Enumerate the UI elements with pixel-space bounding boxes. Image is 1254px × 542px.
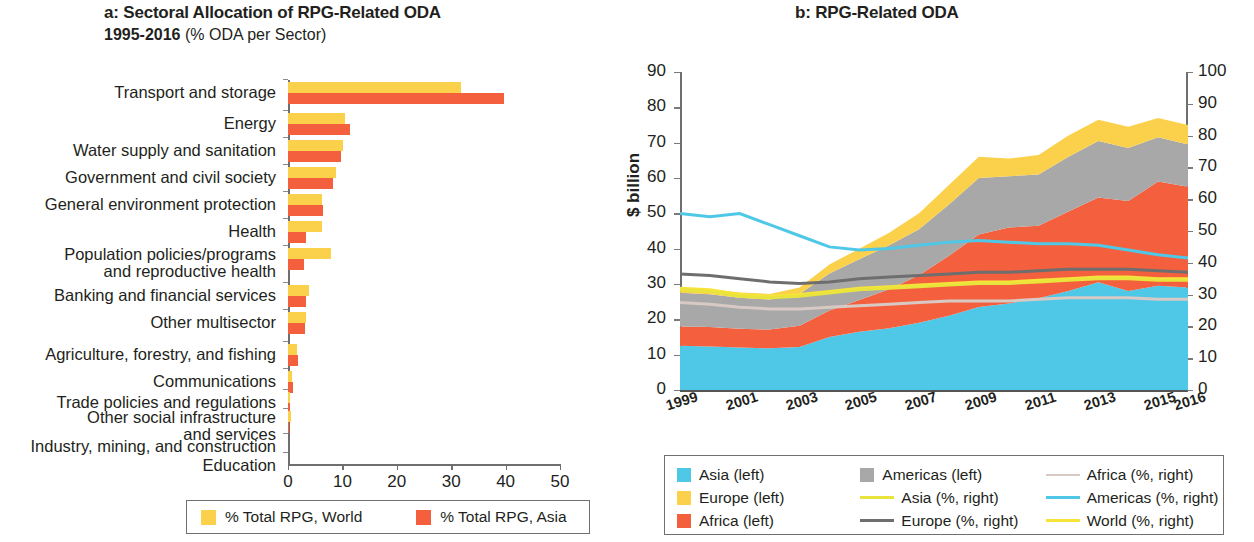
panel-b-left-tick-label: 70 <box>626 132 666 152</box>
legend-swatch-asia-icon <box>677 468 691 482</box>
panel-a-x-tick-label: 30 <box>429 472 473 492</box>
panel-a-category-label: General environment protection <box>0 196 282 213</box>
panel-b-x-tick-label: 2005 <box>843 389 879 414</box>
panel-a-y-tick <box>283 433 288 434</box>
panel-a-bar-asia <box>288 355 298 366</box>
panel-a-subtitle: 1995-2016 (% ODA per Sector) <box>104 26 326 44</box>
panel-b-legend-item-europe-left: Europe (left) <box>665 489 860 507</box>
legend-line-asia-pct-icon <box>860 496 894 499</box>
panel-b-legend-label-5: Americas (%, right) <box>1087 489 1219 507</box>
panel-a-bar-world <box>288 285 309 296</box>
panel-a-title: a: Sectoral Allocation of RPG-Related OD… <box>104 3 441 23</box>
panel-b-left-tick <box>674 390 680 391</box>
panel-a-category-label: Energy <box>0 115 282 132</box>
panel-b-legend-label-2: Africa (%, right) <box>1087 466 1194 484</box>
panel-b-left-tick-label: 90 <box>626 61 666 81</box>
panel-a-bar-asia <box>288 205 323 216</box>
panel-a-legend: % Total RPG, World % Total RPG, Asia <box>186 500 590 534</box>
panel-a-category-label: Agriculture, forestry, and fishing <box>0 346 282 363</box>
panel-b-right-tick-label: 80 <box>1198 125 1242 145</box>
legend-line-world-pct-icon <box>1046 519 1080 522</box>
panel-a-category-label: Other multisector <box>0 314 282 331</box>
panel-a-category-label: Industry, mining, and construction <box>0 438 282 455</box>
panel-a-y-tick <box>283 164 288 165</box>
panel-a-bar-asia <box>288 422 289 433</box>
panel-b-legend-item-world-pct: World (%, right) <box>1046 512 1223 530</box>
panel-b-left-tick-label: 50 <box>626 202 666 222</box>
panel-b-left-tick-label: 60 <box>626 167 666 187</box>
panel-a-sectoral-allocation: a: Sectoral Allocation of RPG-Related OD… <box>0 0 620 542</box>
panel-b-legend-item-americas-left: Americas (left) <box>860 466 1045 484</box>
panel-a-bar-asia <box>288 259 304 270</box>
panel-b-x-tick-label: 2016 <box>1172 389 1208 414</box>
panel-b-plot-area <box>680 72 1188 390</box>
legend-line-americas-pct-icon <box>1046 496 1080 499</box>
panel-b-x-tick-label: 2011 <box>1023 389 1058 414</box>
panel-a-bar-world <box>288 140 343 151</box>
panel-a-y-tick <box>283 137 288 138</box>
panel-b-x-tick-label: 2003 <box>784 389 820 414</box>
panel-b-legend-label-3: Europe (left) <box>699 489 784 507</box>
panel-a-bar-world <box>288 371 292 382</box>
legend-swatch-europe-icon <box>677 491 691 505</box>
panel-a-x-tick-label: 0 <box>266 472 310 492</box>
panel-a-x-tick-label: 10 <box>320 472 364 492</box>
panel-b-legend-label-8: World (%, right) <box>1087 512 1194 530</box>
panel-b-legend-label-4: Asia (%, right) <box>901 489 998 507</box>
panel-a-y-tick <box>283 341 288 342</box>
panel-b-legend-item-europe-pct: Europe (%, right) <box>860 512 1045 530</box>
panel-b-x-tick-label: 2001 <box>724 389 760 414</box>
panel-a-bar-asia <box>288 296 306 307</box>
panel-a-y-tick <box>283 218 288 219</box>
legend-swatch-americas-icon <box>860 468 874 482</box>
panel-a-legend-label-world: % Total RPG, World <box>225 508 362 526</box>
panel-a-x-tick-label: 40 <box>484 472 528 492</box>
panel-b-legend-item-africa-left: Africa (left) <box>665 512 860 530</box>
panel-a-bar-world <box>288 194 322 205</box>
panel-b-left-tick-label: 80 <box>626 96 666 116</box>
panel-b-right-tick-label: 40 <box>1198 252 1242 272</box>
panel-a-bar-asia <box>288 323 305 334</box>
panel-a-bar-asia <box>288 124 350 135</box>
panel-a-category-label: Transport and storage <box>0 84 282 101</box>
panel-a-x-tick <box>288 464 289 470</box>
panel-a-bar-world <box>288 344 297 355</box>
panel-b-legend-label-7: Europe (%, right) <box>901 512 1018 530</box>
panel-b-legend-label-0: Asia (left) <box>699 466 764 484</box>
panel-a-y-tick <box>283 309 288 310</box>
panel-b-legend: Asia (left) Americas (left) Africa (%, r… <box>664 455 1224 535</box>
legend-swatch-world-icon <box>201 510 216 525</box>
panel-a-y-tick <box>283 191 288 192</box>
panel-a-category-label: Education <box>0 457 282 474</box>
panel-a-bar-asia <box>288 93 504 104</box>
legend-swatch-africa-icon <box>677 514 691 528</box>
panel-a-subtitle-unit: (% ODA per Sector) <box>181 26 327 43</box>
panel-a-bar-world <box>288 221 322 232</box>
panel-a-bar-world <box>288 113 345 124</box>
panel-b-legend-item-africa-pct: Africa (%, right) <box>1046 466 1223 484</box>
legend-line-europe-pct-icon <box>860 519 894 522</box>
panel-a-x-tick-label: 20 <box>375 472 419 492</box>
panel-b-legend-label-1: Americas (left) <box>882 466 982 484</box>
panel-b-legend-label-6: Africa (left) <box>699 512 774 530</box>
panel-b-right-tick-label: 50 <box>1198 220 1242 240</box>
panel-a-category-label: Government and civil society <box>0 169 282 186</box>
panel-a-bar-world <box>288 392 290 403</box>
panel-b-rpg-related-oda: b: RPG-Related ODA $ billion % of total … <box>620 0 1254 542</box>
panel-b-x-tick-label: 1999 <box>664 389 700 414</box>
panel-a-legend-label-asia: % Total RPG, Asia <box>440 508 566 526</box>
panel-b-right-tick-label: 60 <box>1198 188 1242 208</box>
panel-b-legend-row-2: Europe (left) Asia (%, right) Americas (… <box>665 486 1223 509</box>
panel-a-y-tick <box>283 282 288 283</box>
panel-a-category-label: Banking and financial services <box>0 287 282 304</box>
panel-a-bar-world <box>288 167 336 178</box>
panel-a-legend-item-world: % Total RPG, World <box>201 508 362 526</box>
panel-b-right-tick-label: 10 <box>1198 347 1242 367</box>
panel-a-bar-asia <box>288 178 333 189</box>
panel-a-bar-world <box>288 82 461 93</box>
panel-a-x-tick <box>397 464 398 470</box>
panel-a-bar-world <box>288 411 291 422</box>
panel-a-category-label: Communications <box>0 373 282 390</box>
panel-a-category-label: Population policies/programsand reproduc… <box>0 246 282 280</box>
panel-b-x-tick-label: 2009 <box>963 389 999 414</box>
